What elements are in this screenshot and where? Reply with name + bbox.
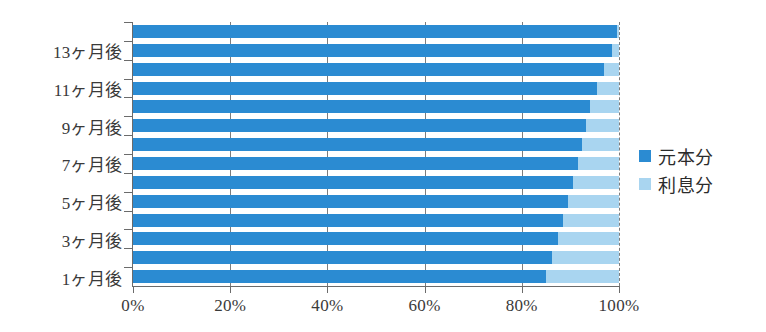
bar-segment-principal [133, 44, 612, 57]
x-axis-tick-label: 80% [506, 296, 538, 316]
bar-row [133, 100, 619, 113]
y-axis-tick-label: 5ヶ月後 [62, 189, 122, 214]
gridline [619, 22, 621, 286]
bar-segment-principal [133, 270, 546, 283]
y-axis-tick-label: 13ヶ月後 [53, 38, 122, 63]
bar-row [133, 63, 619, 76]
plot-area [133, 22, 619, 286]
bar-segment-interest [617, 25, 619, 38]
bar-segment-principal [133, 25, 617, 38]
y-axis-tick [124, 248, 133, 249]
gridline [522, 22, 523, 286]
bar-segment-interest [597, 82, 619, 95]
bar-segment-interest [612, 44, 619, 57]
y-axis-tick [124, 116, 133, 117]
bar-segment-interest [590, 100, 619, 113]
bar-row [133, 251, 619, 264]
bar-segment-interest [568, 195, 619, 208]
legend-swatch-icon [639, 150, 651, 162]
bar-row [133, 214, 619, 227]
y-axis-tick [124, 135, 133, 136]
x-axis-tick [133, 286, 134, 293]
y-axis-tick [124, 211, 133, 212]
x-axis-tick [327, 286, 328, 293]
bar-segment-principal [133, 157, 578, 170]
x-axis-line [132, 286, 620, 287]
x-axis-tick [619, 286, 620, 293]
bar-row [133, 82, 619, 95]
bar-segment-principal [133, 195, 568, 208]
y-axis-tick [124, 192, 133, 193]
y-axis-tick [124, 97, 133, 98]
bar-segment-interest [558, 232, 619, 245]
bar-segment-principal [133, 63, 604, 76]
x-axis-tick-label: 20% [214, 296, 246, 316]
y-axis-labels: 1ヶ月後3ヶ月後5ヶ月後7ヶ月後9ヶ月後11ヶ月後13ヶ月後 [0, 0, 122, 332]
x-axis-tick-label: 100% [599, 296, 640, 316]
x-axis-tick-label: 0% [121, 296, 144, 316]
y-axis-tick [124, 79, 133, 80]
y-axis-tick-label: 3ヶ月後 [62, 226, 122, 251]
legend-item[interactable]: 元本分 [639, 142, 759, 170]
bar-row [133, 232, 619, 245]
bar-row [133, 44, 619, 57]
chart-legend: 元本分利息分 [639, 142, 759, 198]
x-axis-tick-label: 40% [311, 296, 343, 316]
x-axis-tick [230, 286, 231, 293]
legend-swatch-icon [639, 178, 651, 190]
bar-segment-principal [133, 100, 590, 113]
y-axis-tick [124, 41, 133, 42]
bar-segment-interest [546, 270, 619, 283]
bar-segment-interest [586, 119, 619, 132]
bar-row [133, 138, 619, 151]
gridline [425, 22, 426, 286]
bar-segment-principal [133, 176, 573, 189]
x-axis-tick-label: 60% [409, 296, 441, 316]
y-axis-tick [124, 154, 133, 155]
bar-segment-principal [133, 251, 552, 264]
bar-segment-interest [552, 251, 619, 264]
y-axis-tick [124, 173, 133, 174]
legend-label: 利息分 [658, 171, 714, 197]
legend-item[interactable]: 利息分 [639, 170, 759, 198]
bar-segment-principal [133, 138, 582, 151]
bar-segment-interest [578, 157, 619, 170]
bar-segment-interest [604, 63, 619, 76]
bar-row [133, 157, 619, 170]
gridline [230, 22, 231, 286]
legend-label: 元本分 [658, 143, 714, 169]
stacked-bar-chart: 1ヶ月後3ヶ月後5ヶ月後7ヶ月後9ヶ月後11ヶ月後13ヶ月後 0%20%40%6… [0, 0, 766, 332]
x-axis-tick [522, 286, 523, 293]
bar-row [133, 25, 619, 38]
y-axis-tick [124, 229, 133, 230]
bar-row [133, 270, 619, 283]
y-axis-tick-label: 1ヶ月後 [62, 264, 122, 289]
y-axis-tick [124, 60, 133, 61]
y-axis-tick-label: 7ヶ月後 [62, 151, 122, 176]
bar-row [133, 176, 619, 189]
bar-segment-principal [133, 214, 563, 227]
bar-row [133, 119, 619, 132]
y-axis-tick-label: 9ヶ月後 [62, 113, 122, 138]
bar-row [133, 195, 619, 208]
bar-segment-principal [133, 82, 597, 95]
y-axis-tick [124, 22, 133, 23]
bar-segment-interest [563, 214, 619, 227]
y-axis-tick [124, 267, 133, 268]
y-axis-tick-label: 11ヶ月後 [54, 76, 122, 101]
bar-segment-interest [573, 176, 619, 189]
x-axis-tick [425, 286, 426, 293]
bar-segment-principal [133, 119, 586, 132]
bar-segment-principal [133, 232, 558, 245]
gridline [133, 22, 134, 286]
bar-segment-interest [582, 138, 619, 151]
gridline [327, 22, 328, 286]
